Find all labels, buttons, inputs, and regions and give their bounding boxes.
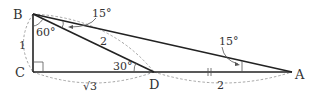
segment-ba — [33, 14, 292, 72]
angle-arc-bdc — [134, 63, 136, 72]
pointer-15-right — [222, 47, 238, 64]
length-label-da: 2 — [217, 79, 224, 92]
angle-arc-cbd — [33, 19, 43, 26]
length-label-cd: √3 — [83, 80, 97, 93]
length-label-bc: 1 — [19, 39, 26, 52]
angle-arc-dba — [62, 21, 63, 28]
point-label-d: D — [149, 77, 159, 92]
geometry-diagram: B C D A 60° 15° 30° 15° 1 2 √3 2 — [0, 0, 319, 96]
angle-label-dba: 15° — [92, 7, 112, 20]
angle-label-cbd: 60° — [36, 26, 56, 39]
angle-label-bad: 15° — [219, 35, 239, 48]
angle-label-bdc: 30° — [113, 60, 133, 73]
arrowhead-15-top — [68, 25, 73, 29]
point-label-c: C — [15, 65, 25, 80]
right-angle-marker — [33, 62, 43, 72]
length-label-bd: 2 — [100, 35, 107, 48]
arrowhead-15-right — [235, 62, 240, 66]
point-label-b: B — [13, 7, 23, 22]
point-label-a: A — [294, 67, 305, 82]
